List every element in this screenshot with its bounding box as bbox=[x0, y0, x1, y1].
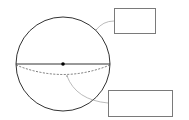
leader-dot-top bbox=[95, 29, 97, 31]
leader-line-bottom bbox=[67, 76, 108, 103]
label-box-bottom[interactable] bbox=[108, 90, 173, 117]
center-point bbox=[61, 62, 65, 66]
sphere-diagram bbox=[0, 0, 189, 120]
label-box-top[interactable] bbox=[114, 8, 156, 34]
equator-dashed-arc bbox=[16, 65, 110, 75]
leader-line-top bbox=[96, 21, 114, 30]
leader-dot-bottom bbox=[66, 75, 68, 77]
